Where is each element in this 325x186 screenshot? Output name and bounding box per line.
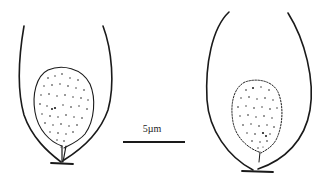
illustration-canvas [0,0,325,186]
left-outer-wall-right [64,26,112,160]
left-outer-wall-left [19,26,61,162]
scale-bar-label: 5µm [132,123,172,135]
right-outer-wall-left [207,12,253,170]
right-stalk [259,152,260,162]
right-base-foot [242,171,273,172]
right-outer-wall-right [258,13,311,169]
left-specimen [19,26,111,164]
right-inner-body-outline [232,80,282,153]
left-inner-body-outline [34,67,94,148]
right-stippling [237,86,277,148]
left-base-foot [51,163,73,164]
right-specimen [207,12,312,172]
